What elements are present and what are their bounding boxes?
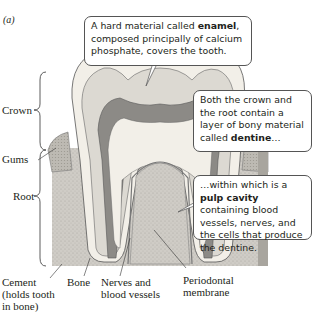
enamel-term: enamel [198,20,237,31]
dentine-callout-post: … [271,132,280,143]
enamel-callout-pre: A hard material called [91,20,198,31]
label-root: Root [13,190,34,202]
label-cement-line3: in bone) [2,300,55,312]
dentine-callout: Both the crown and the root contain a la… [193,90,312,152]
gum-left [48,132,72,172]
enamel-callout: A hard material called enamel, composed … [84,16,252,66]
label-crown: Crown [2,104,32,116]
label-periodontal: Periodontal membrane [183,274,234,298]
pulp-callout-pre: …within which is a [200,179,287,190]
label-cement-line2: (holds tooth [2,288,55,300]
pulp-term: pulp cavity [200,192,258,203]
pulp-callout: …within which is a pulp cavity containin… [193,175,312,240]
label-cement: Cement (holds tooth in bone) [2,276,55,312]
label-nerves: Nerves and blood vessels [101,276,160,300]
label-periodontal-line1: Periodontal [183,274,234,286]
label-nerves-line1: Nerves and [101,276,160,288]
label-cement-line1: Cement [2,276,55,288]
crown-brace [34,72,46,150]
dentine-term: dentine [231,132,271,143]
label-nerves-line2: blood vessels [101,288,160,300]
label-periodontal-line2: membrane [183,286,234,298]
label-bone: Bone [67,276,90,288]
label-gums: Gums [2,153,28,165]
root-brace [34,150,46,266]
